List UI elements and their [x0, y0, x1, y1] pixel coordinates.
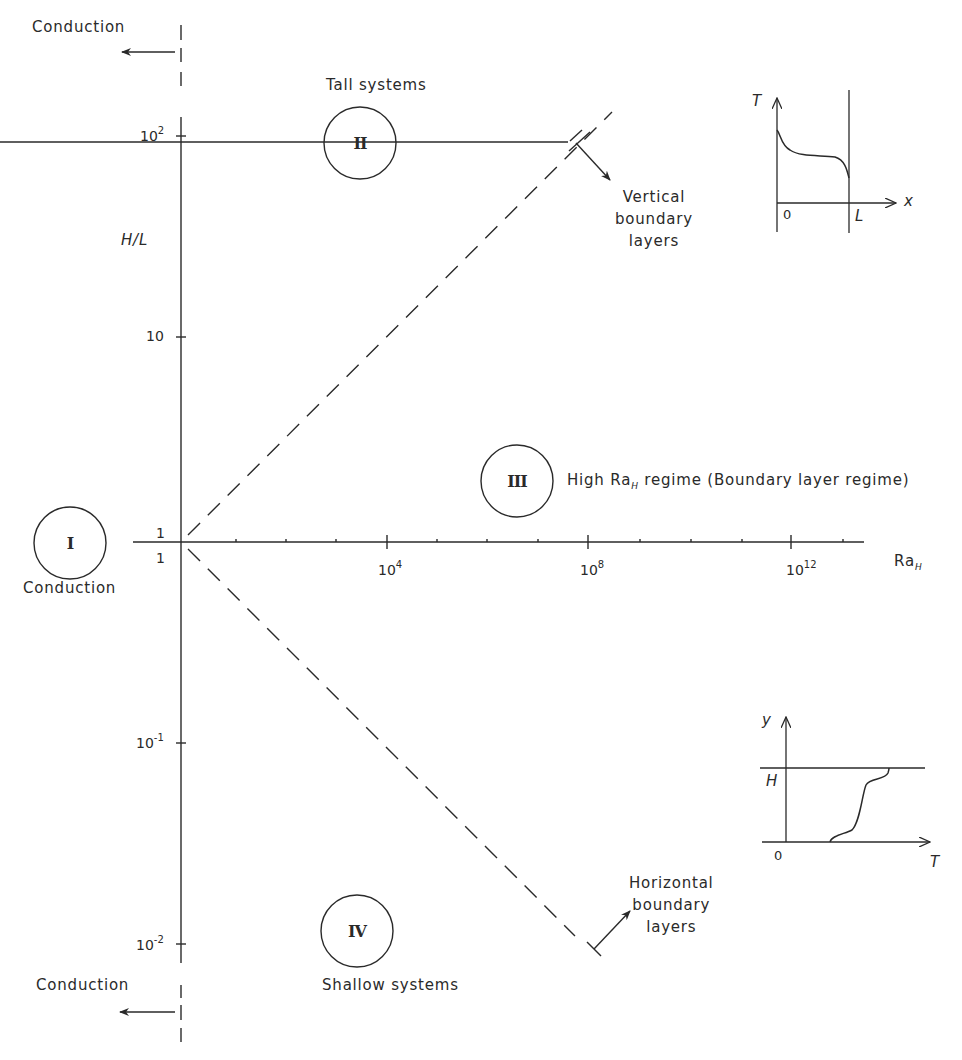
x-tick-1e8: 108: [580, 560, 604, 578]
region-IV-label: Shallow systems: [322, 976, 459, 994]
conduction-label-top: Conduction: [32, 18, 125, 36]
horizontal-bl-line2: boundary: [629, 894, 714, 916]
x-axis-label-main: Ra: [894, 552, 915, 570]
region-I-numeral: I: [67, 534, 73, 553]
inset1-x-label: x: [904, 192, 914, 210]
inset2-T-label: T: [930, 853, 940, 871]
inset2-origin-label: 0: [774, 848, 783, 863]
inset1-L-label: L: [855, 207, 864, 225]
horizontal-bl-line1: Horizontal: [629, 872, 714, 894]
x-tick-1e12: 1012: [786, 560, 817, 578]
vertical-bl-line1: Vertical: [615, 186, 693, 208]
y-tick-1: 1: [156, 525, 165, 541]
horizontal-bl-line3: layers: [629, 916, 714, 938]
vertical-bl-line2: boundary: [615, 208, 693, 230]
region-I-label: Conduction: [23, 579, 116, 597]
y-tick-0.01: 10-2: [136, 935, 164, 953]
region-III-numeral: III: [507, 472, 526, 491]
x-axis-label: RaH: [894, 552, 922, 570]
inset-vertical-profile: [777, 90, 896, 233]
region-III-label-sub: H: [631, 481, 639, 491]
vertical-bl-line3: layers: [615, 230, 693, 252]
tall-boundary-dashed: [188, 112, 612, 535]
y-tick-10: 10: [146, 328, 164, 344]
region-II-numeral: II: [354, 134, 367, 153]
region-III-label: High RaH regime (Boundary layer regime): [567, 471, 909, 489]
region-III-label-prefix: High Ra: [567, 471, 631, 489]
horizontal-bl-label: Horizontal boundary layers: [629, 872, 714, 938]
y-axis-label: H/L: [121, 231, 148, 249]
conduction-label-bottom: Conduction: [36, 976, 129, 994]
vertical-bl-label: Vertical boundary layers: [615, 186, 693, 252]
x-tick-1: 1: [156, 550, 165, 566]
region-III-label-suffix: regime (Boundary layer regime): [639, 471, 910, 489]
y-tick-0.1: 10-1: [136, 733, 164, 751]
inset2-H-label: H: [766, 772, 778, 790]
region-II-label: Tall systems: [326, 76, 427, 94]
y-tick-100: 102: [140, 126, 164, 144]
inset2-y-label: y: [762, 711, 772, 729]
x-tick-1e4: 104: [378, 560, 402, 578]
inset1-origin-label: 0: [783, 207, 792, 222]
inset-horizontal-profile: [760, 717, 930, 842]
regime-diagram: [0, 0, 962, 1060]
inset1-T-label: T: [752, 92, 762, 110]
region-IV-numeral: IV: [348, 922, 366, 941]
x-axis-label-sub: H: [915, 562, 923, 572]
shallow-boundary-dashed: [188, 549, 575, 936]
